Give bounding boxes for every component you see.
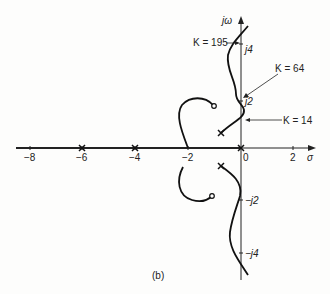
y-tick-label: −j4 xyxy=(245,248,259,259)
gain-annotation-64: K = 64 xyxy=(275,63,305,74)
zero-icon xyxy=(210,194,215,199)
zero-icon xyxy=(212,104,217,109)
root-locus-figure: −8 −6 −4 −2 0 2 σ jω j4 j2 −j2 −j4 xyxy=(0,0,330,294)
jw-axis-label: jω xyxy=(220,15,232,26)
y-tick-label: j4 xyxy=(243,44,253,55)
pole-icon xyxy=(218,130,224,136)
x-tick-label: −8 xyxy=(24,152,36,163)
upper-zero-branch xyxy=(179,98,213,148)
x-tick-label: 2 xyxy=(290,152,296,163)
poles xyxy=(79,130,244,169)
imag-axis-arrow-icon xyxy=(238,16,244,24)
lower-locus-branch xyxy=(221,166,248,275)
pole-icon xyxy=(218,163,224,169)
x-tick-label: −2 xyxy=(182,152,194,163)
x-tick-label: 0 xyxy=(243,152,249,163)
real-axis-arrow-icon xyxy=(308,145,316,151)
gain-annotation-14: K = 14 xyxy=(283,115,313,126)
root-locus-plot: −8 −6 −4 −2 0 2 σ jω j4 j2 −j2 −j4 xyxy=(0,0,330,294)
sigma-axis-label: σ xyxy=(307,152,314,163)
y-tick-label: −j2 xyxy=(245,195,259,206)
x-tick-label: −6 xyxy=(76,152,88,163)
lower-zero-branch xyxy=(179,167,212,201)
x-tick-label: −4 xyxy=(129,152,141,163)
figure-caption: (b) xyxy=(152,270,164,281)
gain-annotation-195: K = 195 xyxy=(193,37,228,48)
